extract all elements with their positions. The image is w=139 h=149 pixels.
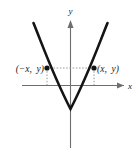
coordinate-plane-svg: y x (−x, y) (x, y) xyxy=(0,0,139,149)
right-point-marker xyxy=(91,65,96,70)
x-axis-label: x xyxy=(127,81,132,91)
y-axis-arrowhead xyxy=(68,20,74,28)
right-point-label: (x, y) xyxy=(97,64,119,75)
x-axis-arrowhead xyxy=(117,82,124,88)
left-point-label: (−x, y) xyxy=(16,64,44,75)
parabola-symmetry-figure: y x (−x, y) (x, y) xyxy=(0,0,139,149)
left-point-marker xyxy=(44,65,49,70)
y-axis-label: y xyxy=(68,6,73,16)
